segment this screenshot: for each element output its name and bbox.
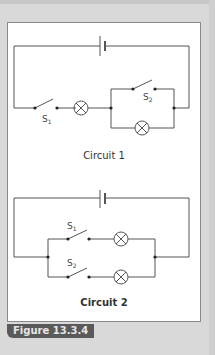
s2-label: S2 — [143, 92, 153, 103]
lamp-icon — [114, 270, 128, 284]
circuit-1-caption: Circuit 1 — [7, 150, 201, 161]
s1-label: S1 — [42, 114, 52, 125]
battery-icon — [100, 190, 105, 208]
switch-s2-icon — [68, 268, 87, 277]
switch-s1-icon — [68, 230, 87, 239]
circuit-2 — [14, 190, 189, 284]
circuit-2-caption: Circuit 2 — [7, 297, 201, 308]
s1-label: S1 — [67, 221, 77, 232]
switch-s1-icon — [35, 99, 53, 108]
lamp-icon — [74, 101, 88, 115]
figure-label: Figure 13.3.4 — [7, 324, 94, 338]
s2-label: S2 — [67, 258, 77, 269]
battery-icon — [100, 36, 105, 56]
lamp-icon — [135, 121, 149, 135]
switch-s2-icon — [133, 80, 152, 89]
lamp-icon — [114, 232, 128, 246]
circuit-1 — [14, 36, 189, 135]
contact-dots — [33, 87, 175, 278]
